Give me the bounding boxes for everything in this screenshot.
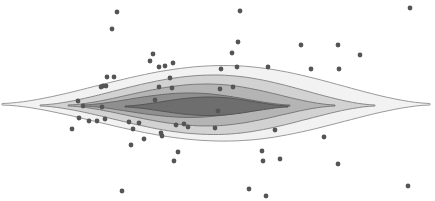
data-point xyxy=(230,51,235,56)
data-point xyxy=(218,87,223,92)
data-point xyxy=(160,134,165,139)
data-point xyxy=(148,59,153,64)
data-point xyxy=(77,116,82,121)
data-point xyxy=(115,10,120,15)
data-point xyxy=(151,52,156,57)
data-point xyxy=(137,121,142,126)
data-point xyxy=(95,119,100,124)
data-point xyxy=(278,157,283,162)
contour-scatter-chart xyxy=(0,0,435,201)
data-point xyxy=(171,61,176,66)
data-point xyxy=(213,126,218,131)
plot-area xyxy=(0,0,435,201)
data-point xyxy=(358,53,363,58)
data-point xyxy=(336,43,341,48)
data-point xyxy=(182,122,187,127)
data-point xyxy=(266,65,271,70)
data-point xyxy=(112,75,117,80)
data-point xyxy=(153,98,158,103)
data-point xyxy=(309,67,314,72)
data-point xyxy=(176,150,181,155)
data-point xyxy=(406,184,411,189)
data-point xyxy=(219,67,224,72)
data-point xyxy=(129,143,134,148)
data-point xyxy=(186,125,191,130)
data-point xyxy=(104,84,109,89)
data-point xyxy=(261,159,266,164)
data-point xyxy=(105,75,110,80)
data-point xyxy=(103,117,108,122)
data-point xyxy=(174,123,179,128)
data-point xyxy=(264,194,269,199)
data-point xyxy=(81,104,86,109)
data-point xyxy=(236,40,241,45)
data-point xyxy=(157,65,162,70)
data-point xyxy=(299,43,304,48)
data-point xyxy=(163,64,168,69)
data-point xyxy=(322,135,327,140)
data-point xyxy=(231,85,236,90)
data-point xyxy=(336,162,341,167)
data-point xyxy=(120,189,125,194)
data-point xyxy=(337,67,342,72)
data-point xyxy=(168,76,173,81)
data-point xyxy=(408,6,413,11)
data-point xyxy=(100,105,105,110)
data-point xyxy=(157,85,162,90)
data-point xyxy=(235,65,240,70)
data-point xyxy=(110,27,115,32)
data-point xyxy=(216,109,221,114)
data-point xyxy=(131,127,136,132)
data-point xyxy=(87,119,92,124)
data-point xyxy=(260,149,265,154)
data-point xyxy=(99,85,104,90)
data-point xyxy=(170,86,175,91)
data-point xyxy=(127,120,132,125)
data-point xyxy=(273,128,278,133)
data-point xyxy=(238,9,243,14)
data-point xyxy=(142,137,147,142)
data-point xyxy=(76,99,81,104)
data-point xyxy=(70,127,75,132)
data-point xyxy=(247,187,252,192)
data-point xyxy=(172,159,177,164)
